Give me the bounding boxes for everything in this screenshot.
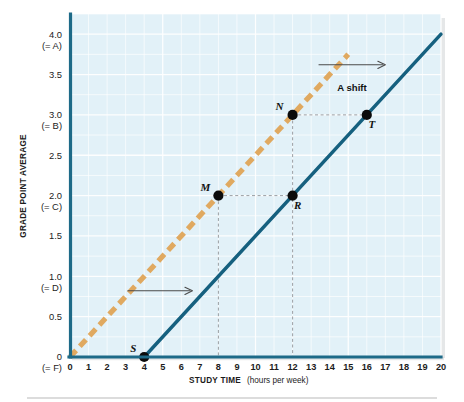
y-tick-3.0: 3.0 bbox=[49, 109, 62, 120]
x-tick-4: 4 bbox=[142, 362, 148, 372]
y-tick-4.0: 4.0 bbox=[49, 29, 62, 40]
x-tick-16: 16 bbox=[362, 362, 372, 372]
point-marker-M bbox=[213, 190, 223, 200]
y-tick-grade-3.0: (= B) bbox=[41, 120, 62, 131]
y-axis-title: GRADE POINT AVERAGE bbox=[19, 134, 28, 238]
x-tick-3: 3 bbox=[123, 362, 128, 372]
x-tick-15: 15 bbox=[343, 362, 353, 372]
x-tick-7: 7 bbox=[197, 362, 202, 372]
y-tick-grade-1.0: (= D) bbox=[41, 282, 62, 293]
y-tick-2.5: 2.5 bbox=[49, 150, 62, 161]
x-tick-9: 9 bbox=[234, 362, 239, 372]
x-tick-11: 11 bbox=[269, 362, 279, 372]
y-tick-0.5: 0.5 bbox=[49, 311, 62, 322]
x-tick-13: 13 bbox=[306, 362, 316, 372]
y-tick-grade-2.0: (= C) bbox=[41, 201, 62, 212]
x-tick-8: 8 bbox=[216, 362, 221, 372]
chart-figure: A shift SMRNT 01234567891011121314151617… bbox=[0, 0, 464, 402]
y-tick-0: 0 bbox=[57, 351, 62, 362]
x-axis-title: STUDY TIME bbox=[189, 376, 241, 385]
point-label-R: R bbox=[293, 199, 301, 211]
x-tick-19: 19 bbox=[417, 362, 427, 372]
a-shift-label: A shift bbox=[337, 82, 367, 93]
x-tick-17: 17 bbox=[380, 362, 390, 372]
x-axis-title-units: (hours per week) bbox=[247, 376, 309, 385]
grade-point-average-vs-study-time-chart: A shift SMRNT 01234567891011121314151617… bbox=[0, 0, 464, 402]
y-tick-grade-0: (= F) bbox=[42, 362, 62, 373]
x-tick-0: 0 bbox=[67, 362, 72, 372]
x-tick-5: 5 bbox=[160, 362, 165, 372]
x-tick-1: 1 bbox=[86, 362, 91, 372]
y-tick-2.0: 2.0 bbox=[49, 190, 62, 201]
x-tick-6: 6 bbox=[179, 362, 184, 372]
x-tick-2: 2 bbox=[105, 362, 110, 372]
y-tick-3.5: 3.5 bbox=[49, 69, 62, 80]
point-label-S: S bbox=[130, 342, 136, 354]
x-tick-10: 10 bbox=[250, 362, 260, 372]
point-label-N: N bbox=[275, 100, 285, 112]
x-tick-14: 14 bbox=[325, 362, 336, 372]
x-tick-12: 12 bbox=[287, 362, 297, 372]
point-marker-N bbox=[288, 110, 298, 120]
x-axis-tick-labels: 01234567891011121314151617181920 bbox=[67, 362, 446, 372]
point-label-M: M bbox=[200, 181, 212, 193]
y-tick-grade-4.0: (= A) bbox=[42, 40, 62, 51]
y-tick-1.5: 1.5 bbox=[49, 230, 62, 241]
x-tick-18: 18 bbox=[399, 362, 409, 372]
x-tick-20: 20 bbox=[436, 362, 446, 372]
y-tick-1.0: 1.0 bbox=[49, 271, 62, 282]
